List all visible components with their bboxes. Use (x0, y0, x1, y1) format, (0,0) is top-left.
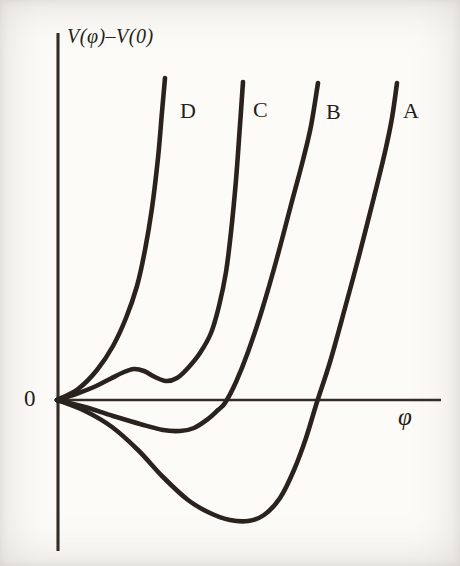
curve-label-c: C (253, 99, 268, 121)
x-axis-label-phi: φ (398, 403, 412, 431)
curve-d (57, 78, 165, 400)
curve-a (57, 83, 397, 521)
curve-c (57, 82, 243, 400)
scanned-figure-page: V(φ)–V(0) 0 φ A B C D (0, 0, 460, 566)
origin-zero-label: 0 (24, 386, 36, 412)
y-axis-label: V(φ)–V(0) (67, 25, 154, 48)
curve-label-b: B (326, 101, 341, 123)
curve-label-d: D (180, 100, 196, 122)
potential-curves-plot (0, 0, 460, 566)
curve-label-a: A (403, 100, 419, 122)
curve-b (57, 83, 318, 431)
